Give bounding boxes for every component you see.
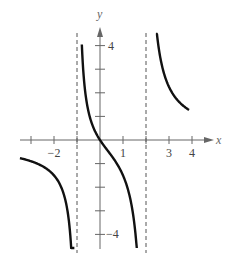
y-axis-label: y [96,7,103,21]
x-tick-label: −2 [48,146,61,160]
right-branch-curve [156,34,189,110]
rational-function-graph: −21344−4 x y [0,0,228,260]
y-tick-label: −4 [106,227,119,241]
x-tick-label: 1 [120,146,126,160]
x-axis-arrow-icon [204,137,214,143]
axes [20,27,214,249]
x-axis-label: x [215,133,222,147]
x-tick-label: 4 [189,146,195,160]
middle-branch-curve [82,45,137,248]
vertical-asymptotes [77,33,146,253]
y-tick-label: 4 [108,39,114,53]
x-tick-label: 3 [166,146,172,160]
function-curves [20,34,189,248]
left-branch-curve [20,158,74,248]
y-axis-arrow-icon [97,27,103,37]
